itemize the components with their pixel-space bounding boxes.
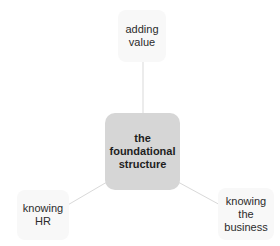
node-label: the foundational structure [110,132,176,171]
node-label: adding value [125,23,158,49]
node-knowing-the-business: knowing the business [218,188,274,240]
node-label: knowing the business [224,195,267,234]
node-adding-value: adding value [118,10,166,62]
node-knowing-hr: knowing HR [17,190,69,240]
connector-bottom-right [178,182,222,206]
node-foundational-structure: the foundational structure [105,113,180,190]
node-label: knowing HR [23,202,63,228]
connector-bottom-left [66,182,107,206]
